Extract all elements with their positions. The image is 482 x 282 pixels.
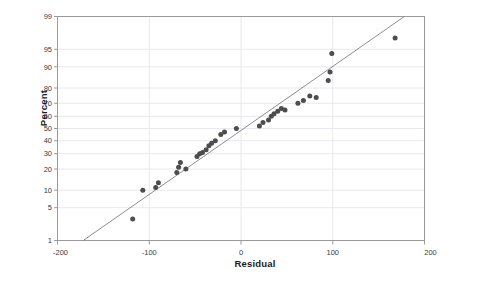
x-tick-label: 0: [239, 248, 243, 257]
y-tick-label: 20: [44, 165, 52, 174]
gridlines: [58, 17, 425, 241]
data-point: [140, 188, 145, 193]
data-point: [176, 165, 181, 170]
data-point: [329, 51, 334, 56]
data-point: [301, 98, 306, 103]
y-axis-title: Percent: [38, 58, 49, 158]
y-tick-label: 5: [48, 203, 52, 212]
data-point: [156, 180, 161, 185]
x-tick-label: -100: [142, 248, 157, 257]
data-point: [174, 170, 179, 175]
data-point: [326, 78, 331, 83]
y-tick-label: 10: [44, 186, 52, 195]
data-point: [257, 124, 262, 129]
data-point: [130, 217, 135, 222]
data-point: [153, 185, 158, 190]
x-axis-title: Residual: [180, 258, 330, 269]
data-point: [328, 69, 333, 74]
data-point: [393, 36, 398, 41]
normal-probability-plot: 151020304050607080909599-200-1000100200 …: [0, 0, 482, 282]
data-point: [307, 94, 312, 99]
x-tick-label: 100: [327, 248, 340, 257]
x-tick-label: -200: [53, 248, 68, 257]
data-point: [213, 138, 218, 143]
y-tick-label: 1: [48, 236, 52, 245]
x-tick-label: 200: [424, 248, 437, 257]
data-point: [234, 126, 239, 131]
data-point: [222, 130, 227, 135]
data-point: [183, 167, 188, 172]
y-tick-label: 95: [44, 45, 52, 54]
data-point: [261, 120, 266, 125]
y-tick-label: 99: [44, 12, 52, 21]
data-point: [283, 107, 288, 112]
data-point: [295, 101, 300, 106]
data-point: [314, 95, 319, 100]
chart-canvas: 151020304050607080909599-200-1000100200: [0, 0, 482, 282]
data-point: [178, 160, 183, 165]
x-axis-ticks: -200-1000100200: [53, 241, 437, 257]
